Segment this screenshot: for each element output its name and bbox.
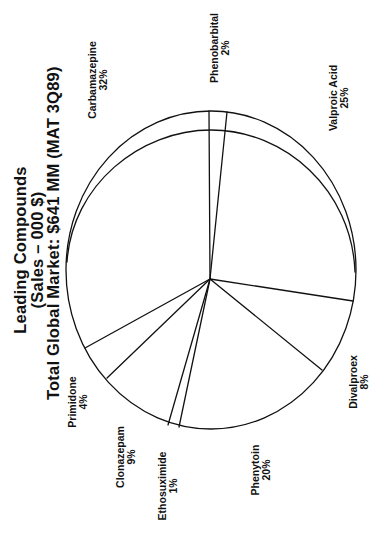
title-line-2: (Sales – 000 $) bbox=[29, 100, 46, 400]
title-line-1: Leading Compounds bbox=[12, 100, 29, 400]
label-pct: 8% bbox=[359, 344, 370, 420]
label-pct: 32% bbox=[98, 30, 109, 130]
spoke-phenobarbital-right bbox=[210, 112, 227, 279]
pie-rim-arc bbox=[67, 130, 355, 272]
label-valproic-acid: Valproic Acid 25% bbox=[328, 53, 350, 143]
spoke-ethosuximide-clonazepam bbox=[168, 279, 210, 425]
label-pct: 1% bbox=[168, 444, 179, 528]
spoke-phenobarbital-left bbox=[209, 111, 210, 279]
label-pct: 25% bbox=[339, 53, 350, 143]
label-pct: 20% bbox=[261, 430, 272, 510]
label-divalproex: Divalproex 8% bbox=[348, 344, 370, 420]
label-clonazepam: Clonazepam 9% bbox=[115, 419, 137, 495]
label-pct: 2% bbox=[220, 3, 231, 93]
spoke-valproic-divalproex bbox=[210, 279, 353, 301]
spoke-phenytoin-ethosuximide bbox=[179, 279, 210, 427]
spoke-divalproex-phenytoin bbox=[210, 279, 322, 370]
label-phenobarbital: Phenobarbital 2% bbox=[209, 3, 231, 93]
label-ethosuximide: Ethosuximide 1% bbox=[157, 444, 179, 528]
label-primidone: Primidone 4% bbox=[67, 369, 89, 435]
label-phenytoin: Phenytoin 20% bbox=[250, 430, 272, 510]
label-pct: 4% bbox=[78, 369, 89, 435]
chart-title: Leading Compounds (Sales – 000 $) Total … bbox=[12, 100, 62, 400]
title-line-3: Total Global Market: $641 MM (MAT 3Q89) bbox=[45, 100, 62, 400]
spoke-primidone-carbamazepine bbox=[85, 279, 210, 348]
label-pct: 9% bbox=[126, 419, 137, 495]
spoke-clonazepam-primidone bbox=[107, 279, 210, 378]
label-carbamazepine: Carbamazepine 32% bbox=[87, 30, 109, 130]
